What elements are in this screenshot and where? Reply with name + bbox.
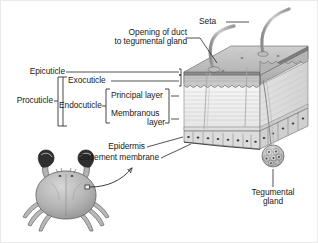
label-tegumental-gland-line2: gland (241, 197, 305, 206)
label-exocuticle: Exocuticle (68, 76, 106, 85)
label-seta: Seta (199, 17, 216, 26)
membranous-layer-front (184, 127, 260, 131)
bracket-endocuticle (102, 89, 110, 123)
cuticle-block (184, 46, 308, 167)
label-epicuticle: Epicuticle (5, 67, 65, 76)
exocuticle-front (184, 75, 260, 87)
principal-layer-front (184, 85, 260, 130)
label-principal-layer: Principal layer (111, 91, 163, 100)
label-membranous-layer-line2: layer (111, 118, 165, 127)
leader-epidermis (147, 137, 183, 147)
label-basement-membrane: Basement membrane (51, 153, 159, 162)
bracket-block-epi (179, 69, 181, 75)
label-procuticle: Procuticle (1, 96, 53, 105)
bracket-block-exo (179, 75, 181, 86)
label-endocuticle: Endocuticle (59, 101, 102, 110)
callout-origin-marker (85, 185, 90, 189)
bracket-layers (165, 89, 169, 123)
label-epidermis: Epidermis (81, 142, 145, 151)
label-opening-of-duct-line2: to tegumental gland (67, 37, 187, 46)
epicuticle-band (184, 72, 260, 75)
callout-arrow (90, 168, 132, 187)
cuticle-diagram-figure: Seta Opening of duct to tegumental gland… (0, 0, 318, 243)
leader-basement-membrane (161, 144, 191, 158)
